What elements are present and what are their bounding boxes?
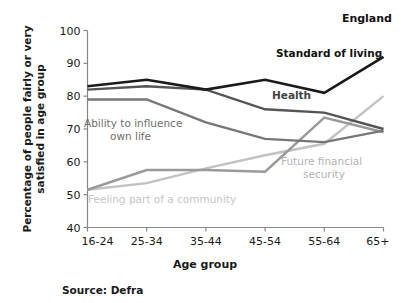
y-axis-title-line1: Percentage of people fairly or very [21, 25, 33, 232]
y-axis-tick-label: 40 [67, 222, 81, 235]
source-label: Source: Defra [62, 284, 143, 296]
y-axis-tick-label: 80 [67, 90, 81, 103]
x-axis-tick-label: 45-54 [249, 235, 281, 248]
annotation-label-2: Ability to influence [84, 117, 182, 129]
y-axis-tick-label: 100 [60, 25, 81, 38]
chart-figure: 405060708090100Percentage of people fair… [0, 0, 411, 303]
annotation-label-6: Feeling part of a community [88, 193, 236, 205]
y-axis-tick-label: 50 [67, 189, 81, 202]
y-axis-tick-label: 70 [67, 123, 81, 136]
x-axis-tick-label: 16-24 [82, 235, 114, 248]
x-axis-tick-label: 25-34 [131, 235, 163, 248]
region-label: England [342, 12, 392, 25]
annotation-label-3: own life [110, 130, 151, 142]
annotation-label-4: Future financial [281, 155, 362, 167]
x-axis-tick-label: 55-64 [308, 235, 340, 248]
x-axis-tick-label: 35-44 [190, 235, 222, 248]
x-axis-tick-label: 65+ [366, 235, 389, 248]
y-axis-title-line2: satisfied in age group [34, 64, 46, 194]
annotation-label-5: security [303, 168, 345, 180]
x-axis-title: Age group [173, 258, 237, 271]
y-axis-tick-label: 90 [67, 57, 81, 70]
annotation-label-1: Health [272, 89, 311, 101]
annotation-label-0: Standard of living [276, 47, 382, 59]
line-chart: 405060708090100Percentage of people fair… [0, 0, 411, 303]
y-axis-tick-label: 60 [67, 156, 81, 169]
